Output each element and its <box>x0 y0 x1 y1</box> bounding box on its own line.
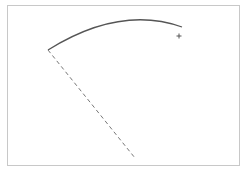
dashed-radius-line <box>48 50 135 158</box>
arc-stroke <box>48 20 182 50</box>
crosshair-cursor-icon <box>177 34 182 39</box>
canvas-drawing-layer <box>0 0 245 172</box>
